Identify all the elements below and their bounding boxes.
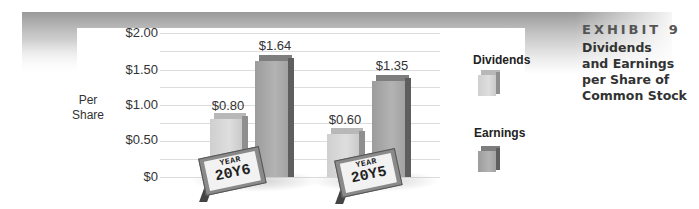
legend-label-earnings: Earnings [474, 126, 525, 140]
dividends-value-label: $0.80 [198, 98, 258, 113]
bar-side [288, 58, 294, 177]
y-axis-label-line: Share [68, 108, 108, 123]
swatch-front [478, 75, 496, 96]
y-axis-label-line: Per [68, 93, 108, 108]
dividends-value-label: $0.60 [315, 112, 375, 127]
y-tick-label: $2.00 [78, 25, 158, 40]
chart-title-line: per Share of [582, 72, 687, 88]
exhibit-label: EXHIBIT 9 [582, 22, 681, 37]
bar-side [405, 78, 411, 177]
swatch-side [496, 148, 500, 170]
header-band-left-fade [22, 40, 82, 80]
gridline [160, 33, 440, 34]
swatch-front [478, 151, 496, 172]
chart-title: Dividends and Earnings per Share of Comm… [582, 40, 687, 104]
y-tick-label: $0 [78, 169, 158, 184]
swatch-side [496, 72, 500, 94]
y-tick-label: $0.50 [78, 132, 158, 147]
chart-title-line: and Earnings [582, 56, 687, 72]
y-axis-label: Per Share [68, 93, 108, 123]
legend-swatch-earnings [478, 146, 500, 172]
legend-swatch-dividends [478, 70, 500, 96]
earnings-value-label: $1.35 [362, 58, 422, 73]
y-tick-label: $1.50 [78, 62, 158, 77]
chart-title-line: Common Stock [582, 88, 687, 104]
chart-title-line: Dividends [582, 40, 687, 56]
earnings-value-label: $1.64 [245, 38, 305, 53]
legend-label-dividends: Dividends [473, 53, 530, 67]
